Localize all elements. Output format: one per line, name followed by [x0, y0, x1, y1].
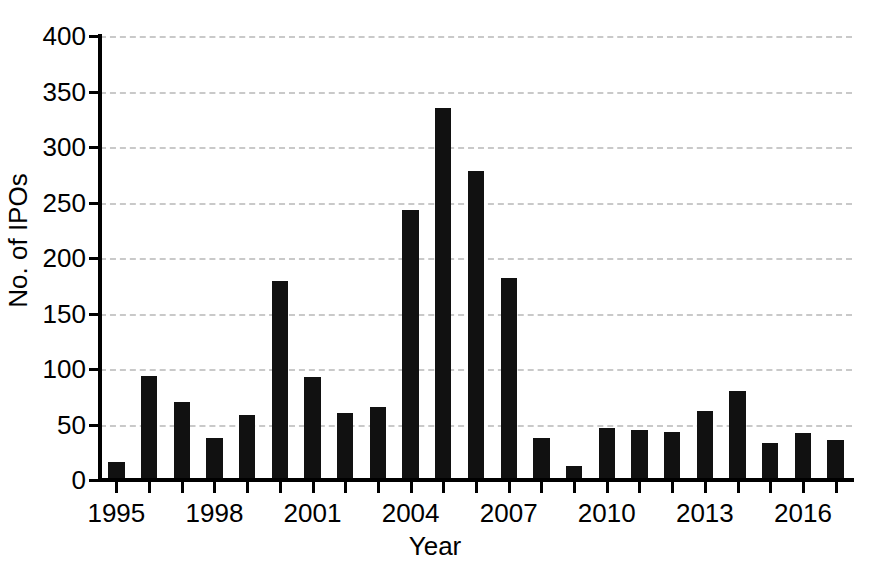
y-axis-tick-mark — [89, 202, 102, 205]
x-axis-tick-mark — [213, 482, 216, 493]
x-axis-tick-mark — [279, 482, 282, 493]
x-axis-tick-label: 2010 — [578, 498, 636, 529]
x-axis-tick-mark — [246, 482, 249, 493]
y-axis-tick-mark — [89, 424, 102, 427]
x-axis-title: Year — [0, 531, 870, 562]
x-axis-tick-label: 1995 — [87, 498, 145, 529]
x-axis-tick-labels: 19951998200120042007201020132016 — [0, 0, 870, 562]
y-axis-tick-mark — [89, 368, 102, 371]
y-axis-tick-mark — [89, 257, 102, 260]
x-axis-tick-mark — [181, 482, 184, 493]
x-axis-tick-label: 2007 — [480, 498, 538, 529]
x-axis-tick-mark — [377, 482, 380, 493]
x-axis-tick-label: 2004 — [382, 498, 440, 529]
y-axis-tick-mark — [89, 35, 102, 38]
x-axis-tick-mark — [148, 482, 151, 493]
x-axis-tick-mark — [835, 482, 838, 493]
y-axis-tick-mark — [89, 479, 102, 482]
x-axis-tick-mark — [737, 482, 740, 493]
x-axis-tick-label: 2016 — [774, 498, 832, 529]
x-axis-tick-mark — [540, 482, 543, 493]
x-axis-tick-label: 2001 — [284, 498, 342, 529]
x-axis-tick-mark — [312, 482, 315, 493]
ipo-bar-chart: No. of IPOs 050100150200250300350400 199… — [0, 0, 870, 562]
x-axis-tick-mark — [508, 482, 511, 493]
x-axis-tick-mark — [671, 482, 674, 493]
x-axis-tick-mark — [769, 482, 772, 493]
x-axis-tick-mark — [606, 482, 609, 493]
x-axis-tick-mark — [442, 482, 445, 493]
x-axis-tick-mark — [704, 482, 707, 493]
x-axis-tick-mark — [410, 482, 413, 493]
x-axis-tick-mark — [115, 482, 118, 493]
y-axis-tick-mark — [89, 313, 102, 316]
x-axis-tick-mark — [573, 482, 576, 493]
x-axis-tick-label: 2013 — [676, 498, 734, 529]
x-axis-tick-mark — [475, 482, 478, 493]
x-axis-tick-mark — [802, 482, 805, 493]
x-axis-tick-mark — [344, 482, 347, 493]
y-axis-tick-mark — [89, 146, 102, 149]
x-axis-tick-label: 1998 — [186, 498, 244, 529]
x-axis-tick-mark — [638, 482, 641, 493]
y-axis-tick-mark — [89, 91, 102, 94]
